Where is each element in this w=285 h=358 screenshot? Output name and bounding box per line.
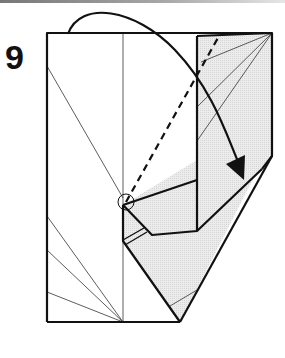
origami-diagram — [0, 0, 285, 358]
